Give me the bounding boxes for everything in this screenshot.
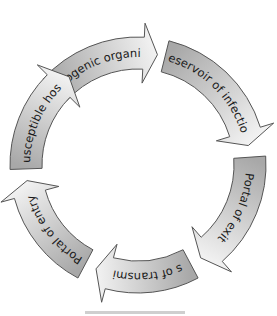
chain-of-infection-diagram: Pathogenic organismReservoir of infectio… [0,0,277,316]
step-label: Susceptible host [0,0,64,163]
arrow-pathogenic-organism: Pathogenic organism [0,0,157,101]
arrow-portal-of-exit: Portal of exit [192,156,266,272]
caption-fragment [85,311,185,314]
arrow-susceptible-host: Susceptible host [0,0,80,169]
arrow-shape [192,156,266,272]
arrow-portal-of-entry: Portal of entry [1,181,93,278]
